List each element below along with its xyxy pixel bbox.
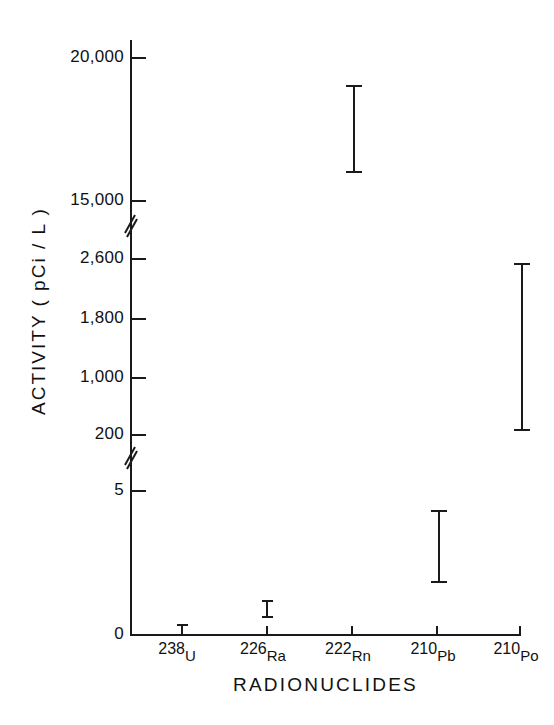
x-tick-label-226ra-symbol: Ra [267, 647, 286, 664]
x-tick-label-210po-mass: 210 [493, 640, 520, 657]
y-tick-mark-200 [132, 434, 146, 436]
x-tick-label-222rn: 222Rn [325, 640, 371, 664]
y-tick-mark-1800 [132, 318, 146, 320]
x-tick-label-226ra: 226Ra [240, 640, 286, 664]
errorbar-cap-bottom-226ra [262, 616, 273, 618]
y-tick-label-0-wrap: 0 [26, 624, 124, 644]
x-tick-label-238u-symbol: U [185, 647, 196, 664]
x-tick-label-222rn-mass: 222 [325, 640, 352, 657]
data-errorbar-210pb [429, 510, 449, 583]
x-tick-mark-210po [519, 626, 521, 635]
y-tick-label-5: 5 [28, 480, 124, 500]
x-tick-label-210pb-symbol: Pb [437, 647, 455, 664]
errorbar-cap-bottom-210po [514, 429, 530, 431]
errorbar-cap-bottom-210pb [431, 581, 447, 583]
y-tick-label-20000: 20,000 [28, 47, 124, 67]
data-errorbar-222rn [344, 85, 364, 173]
x-tick-label-222rn-symbol: Rn [352, 647, 371, 664]
x-tick-label-210po: 210Po [493, 640, 538, 664]
errorbar-stem-222rn [353, 85, 355, 173]
x-tick-label-210po-symbol: Po [520, 647, 538, 664]
data-errorbar-210po [512, 263, 532, 431]
y-axis-break-lower-icon [122, 445, 142, 471]
errorbar-stem-210pb [438, 510, 440, 583]
y-tick-mark-5 [132, 490, 146, 492]
x-tick-label-238u: 238U [158, 640, 196, 664]
y-axis-break-upper-icon [122, 213, 142, 239]
y-axis-line [130, 40, 132, 636]
y-tick-label-20000-wrap: 20,000 [26, 47, 124, 67]
errorbar-stem-210po [521, 263, 523, 431]
y-tick-mark-2600 [132, 258, 146, 260]
errorbar-cap-bottom-222rn [346, 171, 362, 173]
x-tick-label-238u-mass: 238 [158, 640, 185, 657]
x-axis-line [130, 634, 521, 636]
y-tick-mark-1000 [132, 377, 146, 379]
x-tick-label-226ra-mass: 226 [240, 640, 267, 657]
x-tick-mark-210pb [436, 626, 438, 635]
x-axis-title: RADIONUCLIDES [130, 674, 521, 696]
radionuclide-activity-chart: 20,000 15,000 2,600 1,800 1,000 200 5 0 … [0, 0, 554, 725]
errorbar-stem-238u [181, 624, 183, 634]
data-errorbar-238u [174, 624, 190, 634]
y-tick-mark-20000 [132, 57, 146, 59]
x-tick-mark-222rn [351, 626, 353, 635]
x-tick-label-210pb-mass: 210 [410, 640, 437, 657]
x-tick-mark-226ra [266, 626, 268, 635]
y-tick-label-5-wrap: 5 [26, 480, 124, 500]
y-tick-mark-15000 [132, 200, 146, 202]
y-tick-label-0: 0 [28, 624, 124, 644]
y-axis-title: ACTIVITY ( pCi / L ) [28, 146, 50, 476]
x-tick-label-210pb: 210Pb [410, 640, 455, 664]
data-errorbar-226ra [259, 600, 275, 618]
